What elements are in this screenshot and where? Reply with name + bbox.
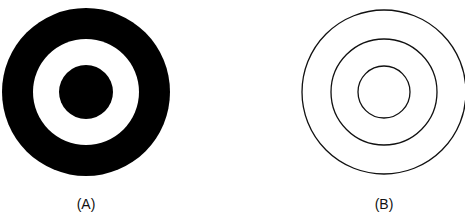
figure-b-outline-circles — [302, 10, 465, 174]
figure-a-filled-bullseye — [2, 8, 170, 176]
figure-a-label: (A) — [66, 196, 106, 212]
concentric-circles-canvas — [0, 0, 465, 213]
figure-b-label: (B) — [364, 196, 404, 212]
figure-b-outer-circle — [302, 10, 465, 174]
figure-b-inner-circle — [358, 66, 410, 118]
figure-b-middle-circle — [331, 39, 437, 145]
figure-a-inner-black-disc — [59, 65, 113, 119]
